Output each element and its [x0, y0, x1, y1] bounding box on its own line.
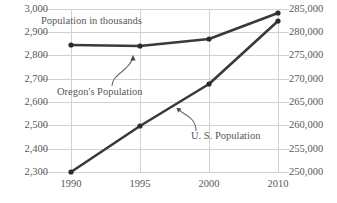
leader-arrow-oregon — [130, 55, 135, 61]
series-layer — [0, 0, 337, 203]
annotation-us-population: U. S. Population — [191, 130, 260, 141]
annotation-population-in-thousands: Population in thousands — [41, 15, 142, 26]
annotation-oregons-population: Oregon's Population — [57, 86, 143, 97]
data-point-us-1990 — [68, 169, 73, 174]
data-point-us-2000 — [206, 81, 211, 86]
data-point-oregon-2000 — [206, 36, 211, 41]
data-point-us-2010 — [275, 18, 280, 23]
leader-line-oregon — [112, 58, 133, 86]
data-point-us-1995 — [137, 123, 142, 128]
data-point-oregon-1990 — [68, 42, 73, 47]
leader-line-us — [179, 110, 196, 131]
data-point-oregon-2010 — [275, 10, 280, 15]
population-line-chart: 3,000 2,900 2,800 2,700 2,600 2,500 2,40… — [0, 0, 337, 203]
data-point-oregon-1995 — [137, 43, 142, 48]
